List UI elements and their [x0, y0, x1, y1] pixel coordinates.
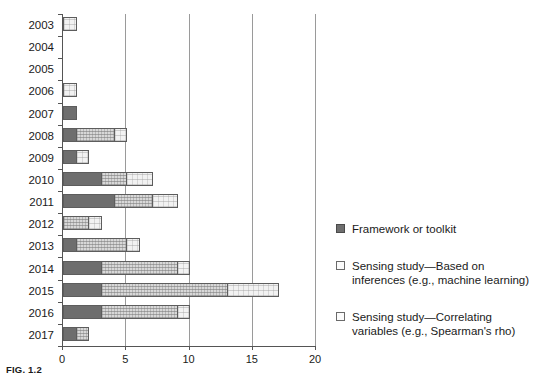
bar-row: 2011 [62, 192, 315, 212]
bar-segment-correlating[interactable] [114, 128, 128, 142]
bar-segment-correlating[interactable] [76, 150, 90, 164]
bar-segment-framework[interactable] [63, 128, 77, 142]
bar-segment-framework[interactable] [63, 283, 102, 297]
bar-segment-inference[interactable] [101, 261, 178, 275]
bar-segment-framework[interactable] [63, 172, 102, 186]
stacked-bar[interactable] [63, 106, 77, 120]
stacked-bar[interactable] [63, 261, 190, 275]
bar-segment-framework[interactable] [63, 150, 77, 164]
y-axis-label-2009: 2009 [28, 152, 54, 164]
y-axis-label-2011: 2011 [29, 196, 54, 208]
stacked-bar[interactable] [63, 83, 77, 97]
stacked-bar[interactable] [63, 172, 153, 186]
y-axis-label-2012: 2012 [28, 218, 54, 230]
x-tick-20 [315, 346, 316, 350]
stacked-bar[interactable] [63, 150, 89, 164]
x-tick-label-0: 0 [59, 353, 65, 365]
legend-swatch-framework-icon [336, 224, 345, 233]
x-tick-10 [189, 346, 190, 350]
stacked-bar[interactable] [63, 128, 127, 142]
legend-label-correlating: Sensing study—Correlating variables (e.g… [352, 310, 532, 339]
y-axis-label-2017: 2017 [28, 329, 54, 341]
bar-row: 2016 [62, 303, 315, 323]
bar-segment-inference[interactable] [101, 283, 229, 297]
bar-segment-framework[interactable] [63, 261, 102, 275]
bar-row: 2006 [62, 81, 315, 101]
legend-swatch-correlating-icon [336, 312, 345, 321]
bar-segment-correlating[interactable] [63, 17, 77, 31]
x-tick-label-20: 20 [309, 353, 321, 365]
bar-segment-inference[interactable] [101, 305, 178, 319]
y-axis-label-2006: 2006 [28, 85, 54, 97]
y-axis-label-2014: 2014 [28, 263, 54, 275]
bar-row: 2007 [62, 104, 315, 124]
bar-segment-correlating[interactable] [177, 261, 191, 275]
bar-row: 2017 [62, 325, 315, 345]
bar-segment-framework[interactable] [63, 327, 77, 341]
y-axis-label-2003: 2003 [28, 19, 54, 31]
bar-segment-correlating[interactable] [126, 238, 140, 252]
y-axis-label-2013: 2013 [28, 240, 54, 252]
gridline-20 [315, 14, 316, 346]
y-axis-label-2016: 2016 [28, 307, 54, 319]
bar-segment-correlating[interactable] [88, 216, 102, 230]
figure-caption: FIG. 1.2 [6, 364, 42, 375]
x-tick-label-5: 5 [122, 353, 128, 365]
legend-item-framework[interactable]: Framework or toolkit [336, 222, 532, 237]
bar-row: 2005 [62, 59, 315, 79]
x-tick-0 [62, 346, 63, 350]
legend-label-framework: Framework or toolkit [352, 222, 456, 237]
y-axis-label-2004: 2004 [28, 41, 54, 53]
bar-row: 2010 [62, 170, 315, 190]
bar-row: 2013 [62, 236, 315, 256]
bar-segment-inference[interactable] [63, 216, 89, 230]
y-axis-label-2007: 2007 [28, 108, 54, 120]
bar-segment-framework[interactable] [63, 194, 115, 208]
bar-segment-inference[interactable] [76, 238, 128, 252]
stacked-bar[interactable] [63, 283, 279, 297]
bar-segment-inference[interactable] [76, 128, 115, 142]
x-tick-5 [125, 346, 126, 350]
legend-label-inference: Sensing study—Based on inferences (e.g.,… [352, 259, 532, 288]
bar-row: 2015 [62, 281, 315, 301]
stacked-bar[interactable] [63, 238, 140, 252]
x-tick-label-10: 10 [182, 353, 194, 365]
bar-segment-correlating[interactable] [63, 83, 77, 97]
bar-segment-inference[interactable] [76, 327, 90, 341]
bar-segment-correlating[interactable] [126, 172, 152, 186]
y-axis-label-2015: 2015 [28, 285, 54, 297]
bar-segment-correlating[interactable] [177, 305, 191, 319]
stacked-bar[interactable] [63, 17, 77, 31]
x-tick-15 [252, 346, 253, 350]
chart-plot-area: 05101520 2003200420052006200720082009201… [62, 14, 315, 346]
bar-segment-correlating[interactable] [227, 283, 279, 297]
stacked-bar[interactable] [63, 216, 102, 230]
y-axis-label-2005: 2005 [28, 63, 54, 75]
stacked-bar[interactable] [63, 327, 89, 341]
y-axis-label-2008: 2008 [28, 130, 54, 142]
stacked-bar[interactable] [63, 305, 190, 319]
x-tick-label-15: 15 [246, 353, 258, 365]
bar-row: 2003 [62, 15, 315, 35]
bar-row: 2014 [62, 259, 315, 279]
figure-container: 05101520 2003200420052006200720082009201… [0, 0, 534, 382]
y-axis-label-2010: 2010 [28, 174, 54, 186]
legend-item-correlating[interactable]: Sensing study—Correlating variables (e.g… [336, 310, 532, 339]
legend-swatch-inference-icon [336, 261, 345, 270]
stacked-bar[interactable] [63, 194, 178, 208]
bar-row: 2009 [62, 148, 315, 168]
bar-segment-framework[interactable] [63, 106, 77, 120]
bar-segment-framework[interactable] [63, 305, 102, 319]
legend-item-inference[interactable]: Sensing study—Based on inferences (e.g.,… [336, 259, 532, 288]
bar-segment-correlating[interactable] [152, 194, 178, 208]
y-tick [58, 346, 62, 347]
chart-legend: Framework or toolkitSensing study—Based … [336, 222, 532, 361]
bar-row: 2012 [62, 214, 315, 234]
bar-row: 2004 [62, 37, 315, 57]
bar-segment-inference[interactable] [101, 172, 127, 186]
bar-row: 2008 [62, 126, 315, 146]
bar-segment-framework[interactable] [63, 238, 77, 252]
bar-segment-inference[interactable] [114, 194, 153, 208]
